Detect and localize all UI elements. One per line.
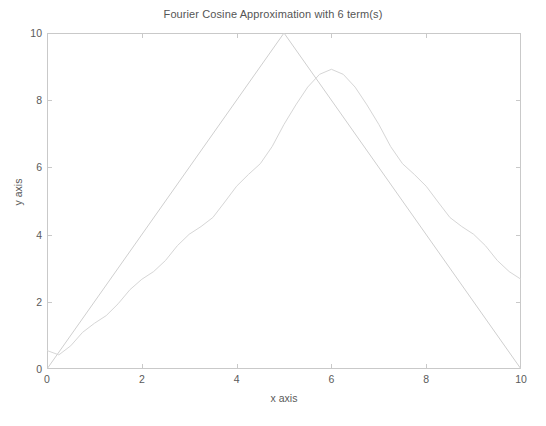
y-tick-label: 8 xyxy=(36,94,42,106)
data-series-group xyxy=(47,33,521,369)
figure-canvas: Fourier Cosine Approximation with 6 term… xyxy=(0,0,546,426)
x-tick-label: 6 xyxy=(328,373,334,385)
y-tick-label: 4 xyxy=(36,229,42,241)
series-line-1 xyxy=(47,69,521,355)
y-tick-label: 0 xyxy=(36,363,42,375)
x-tick-label: 10 xyxy=(515,373,527,385)
y-tick-label: 10 xyxy=(30,27,42,39)
x-tick-label: 8 xyxy=(423,373,429,385)
x-tick-label: 2 xyxy=(139,373,145,385)
x-tick-label: 4 xyxy=(234,373,240,385)
y-tick-label: 6 xyxy=(36,161,42,173)
x-axis-label: x axis xyxy=(47,392,521,404)
y-axis-label: y axis xyxy=(12,162,24,222)
axis-frame xyxy=(48,34,521,369)
tick-marks xyxy=(47,33,521,369)
y-tick-label: 2 xyxy=(36,296,42,308)
plot-area xyxy=(47,33,521,369)
chart-title: Fourier Cosine Approximation with 6 term… xyxy=(0,8,546,20)
series-line-0 xyxy=(47,33,521,369)
x-tick-label: 0 xyxy=(44,373,50,385)
plot-svg xyxy=(47,33,521,369)
